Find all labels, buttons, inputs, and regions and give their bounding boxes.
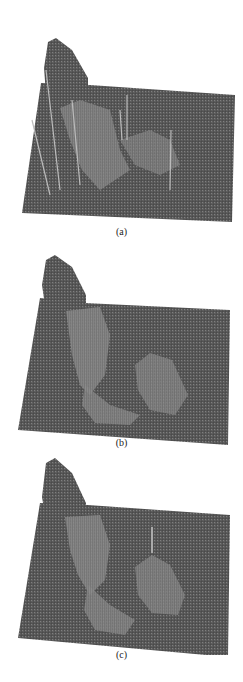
surface-plot-c <box>0 455 243 655</box>
panel-caption-a: (a) <box>0 226 243 237</box>
figure-panel-a: (a) <box>0 0 243 245</box>
surface-plot-a <box>0 0 243 230</box>
figure-panel-c: (c) <box>0 455 243 682</box>
surface-plot-b <box>0 245 243 445</box>
panel-caption-c: (c) <box>0 649 243 660</box>
panel-caption-b: (b) <box>0 437 243 448</box>
figure-panel-b: (b) <box>0 245 243 455</box>
